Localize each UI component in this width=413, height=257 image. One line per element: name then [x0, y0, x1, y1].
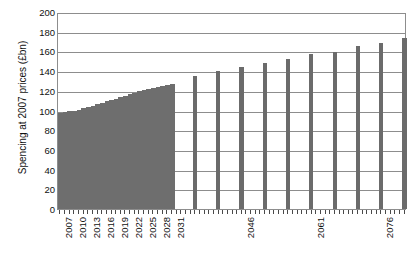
bar — [379, 43, 383, 209]
plot-area — [57, 13, 406, 210]
x-tick-label: 2010 — [77, 217, 88, 238]
y-tick-label: 160 — [29, 47, 55, 57]
x-tick-mark — [301, 210, 302, 214]
bar — [402, 38, 406, 209]
x-tick-mark — [343, 210, 344, 214]
x-tick-mark — [236, 210, 237, 214]
x-tick-mark — [227, 210, 228, 214]
x-tick-mark — [124, 210, 125, 214]
x-tick-mark — [138, 210, 139, 214]
x-tick-mark — [129, 210, 130, 214]
x-tick-mark — [339, 210, 340, 214]
x-tick-mark — [306, 210, 307, 214]
x-tick-mark — [176, 210, 177, 214]
x-tick-mark — [399, 210, 400, 214]
x-tick-mark — [162, 210, 163, 214]
x-tick-mark — [185, 210, 186, 214]
x-tick-mark — [366, 210, 367, 214]
y-tick-label: 80 — [29, 126, 55, 136]
bar — [239, 67, 243, 209]
x-tick-mark — [292, 210, 293, 214]
x-tick-mark — [59, 210, 60, 214]
y-tick-label: 120 — [29, 87, 55, 97]
y-tick-label: 180 — [29, 28, 55, 38]
x-tick-mark — [106, 210, 107, 214]
x-tick-mark — [115, 210, 116, 214]
x-tick-mark — [278, 210, 279, 214]
x-tick-mark — [111, 210, 112, 214]
x-tick-mark — [325, 210, 326, 214]
x-tick-mark — [152, 210, 153, 214]
x-tick-mark — [166, 210, 167, 214]
x-tick-mark — [241, 210, 242, 214]
x-tick-mark — [199, 210, 200, 214]
x-tick-label: 2016 — [105, 217, 116, 238]
x-tick-mark — [357, 210, 358, 214]
x-tick-mark — [255, 210, 256, 214]
x-tick-mark — [334, 210, 335, 214]
x-tick-mark — [404, 210, 405, 214]
x-tick-mark — [143, 210, 144, 214]
x-tick-mark — [320, 210, 321, 214]
x-tick-mark — [83, 210, 84, 214]
x-tick-mark — [259, 210, 260, 214]
x-axis-tick-labels: 2007201020132016201920222025202820312046… — [0, 215, 413, 257]
x-tick-mark — [269, 210, 270, 214]
x-tick-label: 2031 — [175, 217, 186, 238]
x-tick-mark — [101, 210, 102, 214]
y-tick-label: 140 — [29, 67, 55, 77]
x-tick-mark — [394, 210, 395, 214]
y-tick-label: 40 — [29, 166, 55, 176]
x-tick-mark — [208, 210, 209, 214]
x-tick-mark — [283, 210, 284, 214]
x-tick-mark — [204, 210, 205, 214]
y-tick-label: 200 — [29, 8, 55, 18]
x-tick-mark — [218, 210, 219, 214]
x-tick-label: 2061 — [315, 217, 326, 238]
x-tick-mark — [157, 210, 158, 214]
x-tick-label: 2019 — [119, 217, 130, 238]
x-tick-mark — [380, 210, 381, 214]
x-tick-mark — [97, 210, 98, 214]
bar — [170, 84, 175, 209]
chart-container: Spencing at 2007 prices (£bn) 0204060801… — [0, 0, 413, 257]
y-tick-label: 0 — [29, 205, 55, 215]
y-tick-label: 20 — [29, 185, 55, 195]
x-tick-mark — [348, 210, 349, 214]
x-tick-mark — [390, 210, 391, 214]
x-tick-mark — [222, 210, 223, 214]
x-tick-label: 2028 — [161, 217, 172, 238]
x-tick-mark — [250, 210, 251, 214]
x-tick-mark — [171, 210, 172, 214]
x-tick-label: 2013 — [91, 217, 102, 238]
x-tick-label: 2046 — [245, 217, 256, 238]
x-tick-label: 2076 — [384, 217, 395, 238]
x-tick-mark — [376, 210, 377, 214]
x-tick-label: 2025 — [147, 217, 158, 238]
x-tick-mark — [120, 210, 121, 214]
x-tick-label: 2022 — [133, 217, 144, 238]
x-tick-mark — [148, 210, 149, 214]
bar — [286, 59, 290, 209]
x-tick-mark — [245, 210, 246, 214]
x-tick-mark — [73, 210, 74, 214]
x-tick-mark — [180, 210, 181, 214]
x-tick-mark — [362, 210, 363, 214]
x-tick-mark — [87, 210, 88, 214]
x-tick-mark — [213, 210, 214, 214]
bar — [263, 63, 267, 209]
x-tick-mark — [194, 210, 195, 214]
x-tick-mark — [69, 210, 70, 214]
x-tick-mark — [264, 210, 265, 214]
bar — [193, 76, 197, 209]
x-tick-mark — [190, 210, 191, 214]
y-tick-label: 60 — [29, 146, 55, 156]
y-axis-title-text: Spencing at 2007 prices (£bn) — [18, 41, 29, 174]
x-tick-mark — [311, 210, 312, 214]
x-tick-mark — [64, 210, 65, 214]
x-tick-mark — [78, 210, 79, 214]
bar — [333, 52, 337, 209]
x-tick-mark — [232, 210, 233, 214]
y-tick-label: 100 — [29, 107, 55, 117]
x-tick-mark — [385, 210, 386, 214]
